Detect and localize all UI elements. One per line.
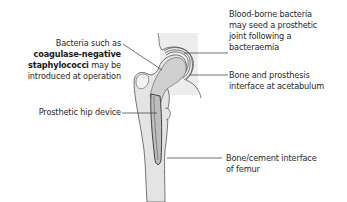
- label-prosthetic-hip-device: Prosthetic hip device: [20, 107, 121, 118]
- leader-bacteria: [123, 44, 162, 70]
- label-line: Bone/cement interface: [226, 153, 344, 164]
- label-femur-interface: Bone/cement interface of femur: [226, 153, 344, 175]
- label-blood-borne: Blood-borne bacteria may seed a prosthet…: [229, 9, 347, 53]
- label-line: Blood-borne bacteria: [229, 9, 347, 20]
- label-bacteria-introduced: Bacteria such as coagulase-negative stap…: [10, 38, 121, 82]
- label-line: bacteraemia: [229, 42, 347, 53]
- label-line: interface at acetabulum: [229, 81, 347, 92]
- label-line: Prosthetic hip device: [20, 107, 121, 118]
- label-line: of femur: [226, 164, 344, 175]
- label-acetabulum: Bone and prosthesis interface at acetabu…: [229, 70, 347, 92]
- label-line: may be: [89, 60, 121, 70]
- organism-name: staphylococci: [28, 60, 89, 70]
- label-line: Bacteria such as: [56, 38, 121, 48]
- label-line: Bone and prosthesis: [229, 70, 347, 81]
- label-line: may seed a prosthetic: [229, 20, 347, 31]
- label-line: joint following a: [229, 31, 347, 42]
- label-line: introduced at operation: [28, 71, 121, 81]
- organism-name: coagulase-negative: [33, 49, 121, 59]
